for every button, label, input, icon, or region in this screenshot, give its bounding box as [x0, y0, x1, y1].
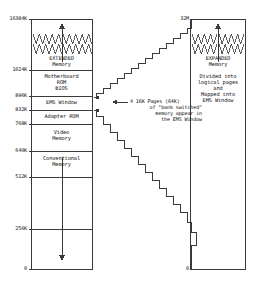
block-label-motherboard-rom-line3: BIOS [31, 86, 92, 92]
right-tick-label-32m: 32M [164, 16, 189, 22]
callout-arrow-head [112, 100, 117, 105]
tick-label-768k: 768K [0, 121, 27, 127]
right-tick-label-0: 0 [164, 266, 189, 272]
block-label-ems-window: EMS Window [31, 100, 92, 106]
tick-label-896k: 896K [0, 93, 27, 99]
tick-label-832k: 832K [0, 107, 27, 113]
staircase-lower [96, 110, 196, 269]
block-label-conventional-memory-line2: Memory [31, 162, 92, 168]
block-label-extended-memory-line2: Memory [31, 62, 92, 68]
block-label-adapter-rom: Adapter ROM [31, 114, 92, 120]
memory-map-diagram: 16384K 1024K 896K 832K 768K 640K 512K 25… [0, 0, 258, 284]
callout-line4: the EMS Window [130, 117, 202, 123]
tick-label-256k: 256K [0, 226, 27, 232]
tick-label-0: 0 [0, 266, 27, 272]
extended-memory-arrow-head [59, 23, 64, 29]
expanded-memory-arrow-head [215, 23, 220, 29]
tick-label-512k: 512K [0, 174, 27, 180]
block-label-video-memory-line2: Memory [31, 136, 92, 142]
expanded-memory-heading-line2: Memory [190, 62, 246, 68]
tick-label-1024k: 1024K [0, 67, 27, 73]
diagram-vector-layer [0, 0, 258, 284]
staircase-upper [96, 20, 191, 98]
conventional-memory-arrow-head [59, 255, 64, 261]
tick-label-16384k: 16384K [0, 16, 27, 22]
tick-label-640k: 640K [0, 148, 27, 154]
